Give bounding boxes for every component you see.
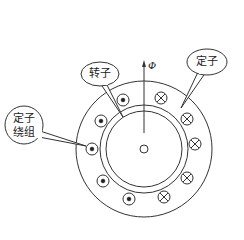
- flux-arrowhead: [142, 60, 146, 67]
- shaft-circle: [140, 145, 148, 153]
- flux-label: Φ: [148, 59, 156, 72]
- dot-conductors: [86, 94, 135, 205]
- rotor-label: 转子: [86, 67, 114, 80]
- stator-label: 定子: [193, 55, 221, 68]
- stator-winding-label-line2: 绕组: [10, 126, 38, 139]
- stator-winding-label-line1: 定子: [10, 112, 38, 125]
